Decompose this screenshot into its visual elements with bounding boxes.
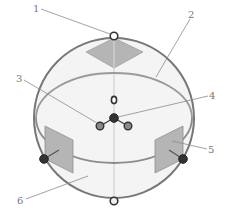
left-node xyxy=(40,155,49,164)
label-4: 4 xyxy=(209,90,215,101)
label-2: 2 xyxy=(188,9,194,20)
right-node xyxy=(179,155,188,164)
top-pole-node xyxy=(110,32,118,40)
sphere-diagram: 1 2 3 4 5 6 xyxy=(0,0,228,220)
label-6: 6 xyxy=(17,195,23,206)
center-node-left xyxy=(96,122,104,130)
center-node-right xyxy=(124,122,132,130)
label-5: 5 xyxy=(208,144,214,155)
leader-1 xyxy=(41,9,110,34)
label-1: 1 xyxy=(33,3,39,14)
label-3: 3 xyxy=(16,73,22,84)
center-small-node xyxy=(111,96,116,103)
bottom-pole-node xyxy=(110,197,118,205)
center-node xyxy=(110,114,119,123)
